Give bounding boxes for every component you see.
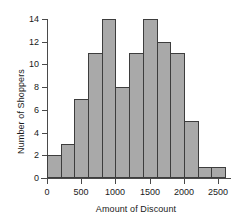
histogram-bar [157, 42, 172, 178]
y-tick-label: 4 [17, 129, 39, 138]
y-tick-label: 14 [17, 15, 39, 24]
y-tick-label: 2 [17, 151, 39, 160]
x-axis-title: Amount of Discount [41, 204, 231, 215]
plot-area [47, 19, 225, 178]
x-tick-mark [184, 179, 185, 184]
x-axis-line [41, 178, 231, 179]
x-tick-mark [218, 179, 219, 184]
x-tick-mark [47, 179, 48, 184]
y-tick-label: 10 [17, 60, 39, 69]
x-tick-mark [81, 179, 82, 184]
histogram-bar [198, 167, 213, 178]
histogram-bar [129, 53, 144, 178]
y-tick-label: 12 [17, 38, 39, 47]
bar-series [47, 19, 225, 178]
histogram-chart: Number of Shoppers 02468101214 050010001… [0, 0, 243, 223]
histogram-bar [170, 53, 185, 178]
x-tick-mark [150, 179, 151, 184]
histogram-bar [61, 144, 76, 178]
histogram-bar [184, 121, 199, 178]
x-tick-label: 1000 [95, 187, 135, 197]
histogram-bar [115, 87, 130, 178]
y-tick-label: 0 [17, 174, 39, 183]
y-tick-label: 6 [17, 106, 39, 115]
x-tick-label: 2500 [198, 187, 238, 197]
histogram-bar [88, 53, 103, 178]
histogram-bar [143, 19, 158, 178]
y-tick-label: 8 [17, 83, 39, 92]
histogram-bar [74, 99, 89, 179]
histogram-bar [102, 19, 117, 178]
histogram-bar [211, 167, 226, 178]
histogram-bar [47, 155, 62, 178]
x-tick-mark [115, 179, 116, 184]
